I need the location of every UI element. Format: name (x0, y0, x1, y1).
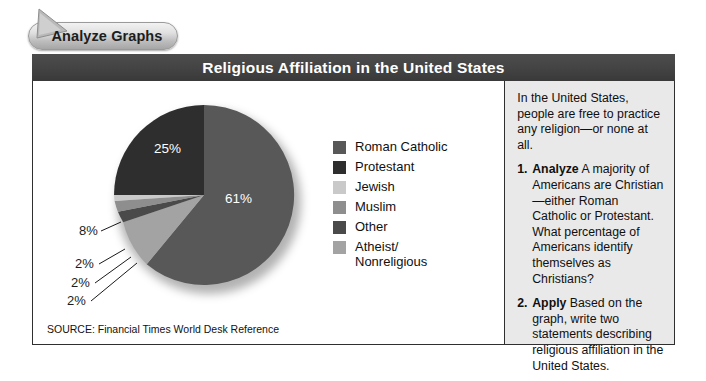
panel-intro-text: In the United States, people are free to… (517, 91, 664, 153)
pie-chart: 61% 25% (112, 103, 302, 293)
chart-frame: 61% 25% 8% 2% 2% 2% Roman Catholic (32, 81, 675, 345)
legend-swatch-icon (333, 241, 346, 254)
question-body: Analyze A majority of Americans are Chri… (532, 162, 664, 287)
legend-swatch-icon (333, 141, 346, 154)
pie-label-muslim: 2% (71, 275, 90, 290)
legend-label-multiline: Atheist/ Nonreligious (355, 239, 427, 269)
legend-label: Protestant (355, 159, 414, 174)
legend-label-line1: Atheist/ (355, 239, 398, 254)
chart-title-bar: Religious Affiliation in the United Stat… (32, 54, 675, 81)
pie-label-roman-catholic: 61% (225, 191, 252, 206)
chart-area: 61% 25% 8% 2% 2% 2% Roman Catholic (33, 81, 504, 344)
legend-label: Other (355, 219, 388, 234)
source-note: SOURCE: Financial Times World Desk Refer… (47, 323, 279, 335)
legend-item-atheist[interactable]: Atheist/ Nonreligious (333, 239, 493, 269)
question-number: 2. (517, 296, 532, 374)
pie-label-atheist: 8% (79, 223, 98, 238)
pie-label-protestant: 25% (154, 141, 181, 156)
legend-swatch-icon (333, 221, 346, 234)
analyze-graphs-tab[interactable]: Analyze Graphs (28, 22, 178, 50)
pie-label-jewish: 2% (67, 293, 86, 308)
pie-label-other: 2% (75, 256, 94, 271)
legend-label: Muslim (355, 199, 396, 214)
legend-item-roman-catholic[interactable]: Roman Catholic (333, 139, 493, 154)
question-item-1: 1. Analyze A majority of Americans are C… (517, 162, 664, 287)
question-term: Apply (532, 296, 566, 310)
pie-slices (112, 103, 302, 293)
question-item-2: 2. Apply Based on the graph, write two s… (517, 296, 664, 374)
worksheet-page: Analyze Graphs Religious Affiliation in … (0, 0, 706, 381)
legend-label-line2: Nonreligious (355, 254, 427, 269)
chart-title: Religious Affiliation in the United Stat… (202, 59, 504, 77)
question-text: A majority of Americans are Christian—ei… (532, 162, 663, 285)
legend-label: Jewish (355, 179, 395, 194)
questions-panel: In the United States, people are free to… (504, 81, 674, 344)
legend-item-protestant[interactable]: Protestant (333, 159, 493, 174)
legend-label: Roman Catholic (355, 139, 448, 154)
legend-item-muslim[interactable]: Muslim (333, 199, 493, 214)
question-term: Analyze (532, 162, 578, 176)
tab-label: Analyze Graphs (28, 22, 178, 50)
legend-swatch-icon (333, 161, 346, 174)
legend-swatch-icon (333, 201, 346, 214)
legend-item-other[interactable]: Other (333, 219, 493, 234)
legend-swatch-icon (333, 181, 346, 194)
legend-item-jewish[interactable]: Jewish (333, 179, 493, 194)
question-number: 1. (517, 162, 532, 287)
question-body: Apply Based on the graph, write two stat… (532, 296, 664, 374)
chart-legend: Roman Catholic Protestant Jewish Muslim … (333, 139, 493, 274)
